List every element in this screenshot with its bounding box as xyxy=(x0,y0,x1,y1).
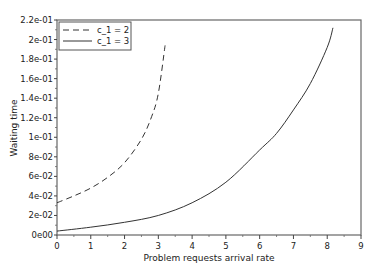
y-tick-label: 6e-02 xyxy=(28,171,53,181)
x-axis-ticks: 0123456789 xyxy=(54,235,363,251)
y-tick-label: 0e00 xyxy=(32,230,53,240)
y-tick-label: 1e-01 xyxy=(28,132,53,142)
plot-frame xyxy=(57,20,361,235)
line-chart: 0e002e-024e-026e-028e-021e-011.2e-011.4e… xyxy=(0,0,373,274)
legend-label: c_1 = 2 xyxy=(97,25,129,35)
y-tick-label: 1.2e-01 xyxy=(20,113,53,123)
x-tick-label: 9 xyxy=(358,241,363,251)
y-tick-label: 2e-01 xyxy=(28,35,53,45)
y-tick-label: 2.2e-01 xyxy=(20,15,53,25)
x-tick-label: 5 xyxy=(223,241,228,251)
y-tick-label: 8e-02 xyxy=(28,152,53,162)
legend: c_1 = 2c_1 = 3 xyxy=(59,22,131,50)
x-axis-label: Problem requests arrival rate xyxy=(143,253,275,263)
data-series xyxy=(57,28,333,231)
x-tick-label: 7 xyxy=(291,241,296,251)
plot-area-border xyxy=(57,20,361,235)
x-tick-label: 1 xyxy=(88,241,93,251)
y-axis-ticks: 0e002e-024e-026e-028e-021e-011.2e-011.4e… xyxy=(20,15,57,240)
legend-label: c_1 = 3 xyxy=(97,36,129,46)
x-tick-label: 0 xyxy=(54,241,59,251)
y-tick-label: 1.6e-01 xyxy=(20,74,53,84)
y-axis-label: Waiting time xyxy=(9,99,19,156)
x-tick-label: 4 xyxy=(189,241,194,251)
series-c1-2-line xyxy=(57,45,165,202)
x-tick-label: 3 xyxy=(156,241,161,251)
y-tick-label: 4e-02 xyxy=(28,191,53,201)
x-tick-label: 8 xyxy=(325,241,330,251)
x-tick-label: 6 xyxy=(257,241,262,251)
y-tick-label: 2e-02 xyxy=(28,210,53,220)
y-tick-label: 1.4e-01 xyxy=(20,93,53,103)
series-c1-3-line xyxy=(57,28,333,231)
x-tick-label: 2 xyxy=(122,241,127,251)
y-tick-label: 1.8e-01 xyxy=(20,54,53,64)
